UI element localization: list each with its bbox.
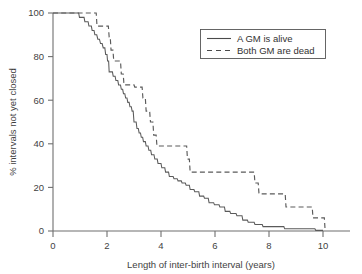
legend-label-a-gm-is-alive: A GM is alive bbox=[237, 33, 292, 44]
y-axis-title: % intervals not yet closed bbox=[7, 68, 18, 176]
y-tick-label-40: 40 bbox=[33, 138, 44, 149]
x-tick-label-2: 2 bbox=[104, 240, 109, 251]
y-tick-label-80: 80 bbox=[33, 51, 44, 62]
y-tick-label-60: 60 bbox=[33, 95, 44, 106]
x-tick-label-0: 0 bbox=[50, 240, 55, 251]
x-axis-ticks: 0246810 bbox=[50, 231, 328, 251]
x-axis-title: Length of inter-birth interval (years) bbox=[127, 259, 275, 270]
x-tick-label-4: 4 bbox=[158, 240, 163, 251]
legend-label-both-gm-are-dead: Both GM are dead bbox=[237, 45, 315, 56]
survival-curve-figure: 020406080100 0246810 % intervals not yet… bbox=[0, 0, 362, 274]
chart-legend: A GM is alive Both GM are dead bbox=[201, 30, 326, 59]
y-axis-ticks: 020406080100 bbox=[28, 7, 53, 236]
x-tick-label-6: 6 bbox=[212, 240, 217, 251]
y-tick-label-20: 20 bbox=[33, 182, 44, 193]
x-tick-label-10: 10 bbox=[318, 240, 329, 251]
chart-canvas: 020406080100 0246810 % intervals not yet… bbox=[0, 0, 362, 274]
y-tick-label-100: 100 bbox=[28, 7, 44, 18]
x-tick-label-8: 8 bbox=[266, 240, 271, 251]
y-tick-label-0: 0 bbox=[39, 225, 44, 236]
